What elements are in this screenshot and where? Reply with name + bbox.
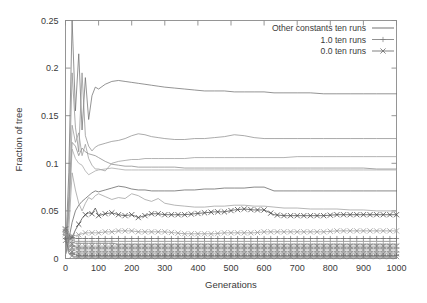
y-tick-label: 0.15 — [41, 111, 59, 121]
x-tick-label: 100 — [91, 263, 106, 273]
x-tick-label: 0 — [63, 263, 68, 273]
x-tick-label: 500 — [223, 263, 238, 273]
series-path — [66, 125, 397, 254]
y-tick-label: 0.25 — [41, 16, 59, 26]
data-series-group — [63, 21, 399, 260]
plot-frame — [66, 21, 397, 259]
series-path — [66, 73, 397, 255]
line-chart: 00.050.10.150.20.25010020030040050060070… — [0, 0, 427, 303]
legend-label: 1.0 ten runs — [321, 35, 366, 45]
x-axis-title: Generations — [205, 279, 257, 290]
legend-label: Other constants ten runs — [272, 23, 366, 33]
x-tick-label: 400 — [190, 263, 205, 273]
data-series — [66, 73, 397, 255]
x-tick-label: 300 — [157, 263, 172, 273]
x-tick-label: 800 — [323, 263, 338, 273]
data-series — [63, 206, 399, 240]
x-tick-label: 1000 — [386, 263, 406, 273]
chart-legend: Other constants ten runs1.0 ten runs0.0 … — [272, 23, 394, 56]
data-series — [66, 125, 397, 254]
y-tick-label: 0.05 — [41, 206, 59, 216]
chart-figure: 00.050.10.150.20.25010020030040050060070… — [0, 0, 427, 303]
legend-label: 0.0 ten runs — [321, 46, 366, 56]
y-axis-title: Fraction of tree — [13, 108, 24, 172]
y-tick-label: 0 — [53, 254, 58, 264]
x-tick-label: 200 — [124, 263, 139, 273]
x-tick-label: 600 — [257, 263, 272, 273]
series-path — [66, 208, 397, 239]
y-tick-label: 0.2 — [46, 63, 59, 73]
x-tick-label: 900 — [356, 263, 371, 273]
y-tick-label: 0.1 — [46, 159, 59, 169]
x-tick-label: 700 — [290, 263, 305, 273]
